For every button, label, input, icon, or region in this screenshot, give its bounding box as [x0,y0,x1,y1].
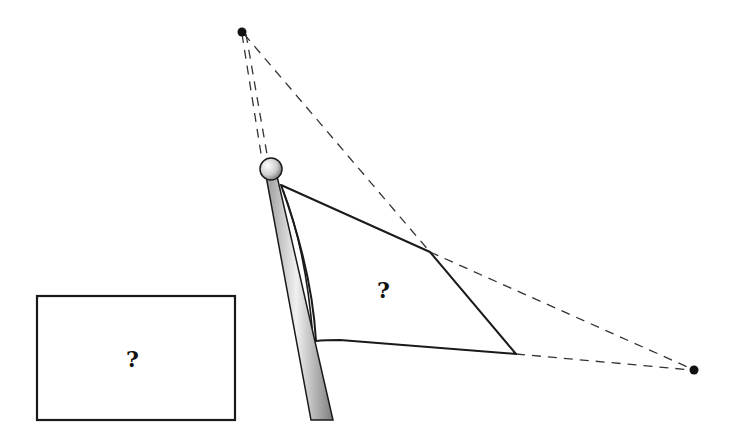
dash-top-to-pole-b [246,34,268,160]
top-vanishing-point [238,28,247,37]
dash-top-to-pole-a [242,34,262,160]
right-vanishing-point [690,366,699,375]
flag-question-mark: ? [377,277,390,303]
rectangle-question-mark: ? [126,346,139,372]
reference-rectangle: ? [37,296,235,420]
flag-projection-diagram: ? ? [0,0,740,444]
flag-shape [281,185,516,354]
diagram-canvas: ? ? [0,0,740,444]
dash-flag-bottom-to-right [516,354,692,370]
flag: ? [281,185,516,354]
pole-finial-ball [260,158,282,180]
